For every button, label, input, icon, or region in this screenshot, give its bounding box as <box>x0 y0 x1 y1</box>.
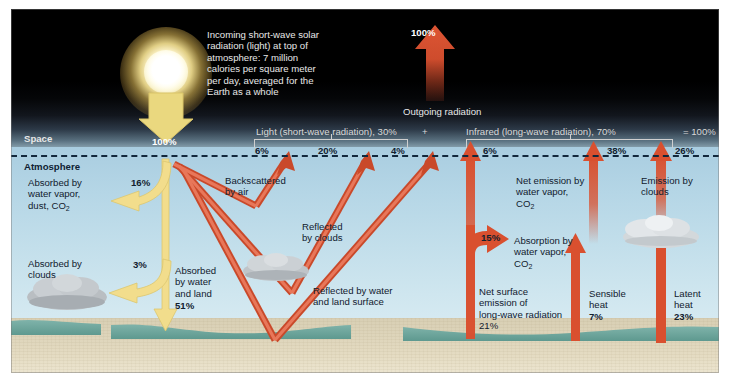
outgoing-total-pct: 100% <box>411 27 436 38</box>
absorbed-atmosphere-text: Absorbed by water vapor, dust, CO <box>28 177 82 211</box>
absorbed-clouds-label: Absorbed by clouds <box>28 258 82 281</box>
pct-absorbed-atmosphere: 16% <box>131 177 150 188</box>
pct-reflected-clouds: 20% <box>318 145 337 156</box>
pct-emission-clouds: 26% <box>675 145 694 156</box>
co2-subscript-3: 2 <box>528 263 532 270</box>
arrow-overlay <box>11 9 719 373</box>
absorbed-surface-label: Absorbed by water and land <box>175 265 216 299</box>
pct-net-emission-vapor: 38% <box>607 145 626 156</box>
net-emission-text: Net emission by water vapor, <box>516 175 584 197</box>
reflected-surface-label: Reflected by water and land surface <box>313 285 392 308</box>
absorbed-atmosphere-label: Absorbed by water vapor, dust, CO2 <box>28 177 82 214</box>
latent-heat-label: Latent heat <box>674 288 701 311</box>
emission-clouds-label: Emission by clouds <box>641 175 693 198</box>
shortwave-reflection-paths <box>173 151 439 340</box>
atmospheric-absorption-label: Absorption by water vapor, CO2 <box>514 235 573 272</box>
atmosphere-label: Atmosphere <box>24 161 80 172</box>
intro-text: Incoming short-wave solar radiation (lig… <box>207 29 319 97</box>
reflected-clouds-label: Reflected by clouds <box>302 221 343 244</box>
pct-reflected-surface: 4% <box>391 145 405 156</box>
incoming-total-pct: 100% <box>152 136 177 147</box>
water-bodies <box>11 318 719 341</box>
longwave-bracket <box>466 139 673 148</box>
shortwave-bracket-label: Light (short-wave radiation), 30% <box>256 126 397 137</box>
pct-latent-heat: 23% <box>674 311 693 322</box>
cloud-icon-right <box>623 215 699 248</box>
sensible-heat-label: Sensible heat <box>589 288 626 311</box>
net-surface-emission-label: Net surface emission of long-wave radiat… <box>479 286 562 332</box>
equals-total-label: = 100% <box>683 126 716 137</box>
net-emission-label: Net emission by water vapor, CO2 <box>516 175 584 212</box>
cloud-icon-middle <box>243 253 309 281</box>
pct-absorbed-surface: 51% <box>175 300 194 311</box>
pct-longwave-surface-window: 6% <box>483 145 497 156</box>
diagram-canvas: Incoming short-wave solar radiation (lig… <box>0 0 730 385</box>
backscattered-air-label: Backscattered by air <box>225 175 286 198</box>
pct-sensible-heat: 7% <box>589 311 603 322</box>
pct-absorbed-clouds: 3% <box>133 259 147 270</box>
energy-budget-figure: Incoming short-wave solar radiation (lig… <box>11 9 719 373</box>
co2-subscript-2: 2 <box>530 203 534 210</box>
pct-backscattered-air: 6% <box>255 145 269 156</box>
plus-sign: + <box>422 126 428 137</box>
space-label: Space <box>24 133 52 144</box>
outgoing-radiation-label: Outgoing radiation <box>403 106 481 117</box>
atmospheric-absorption-text: Absorption by water vapor, CO <box>514 235 573 269</box>
pct-atmospheric-absorption: 15% <box>481 232 500 243</box>
co2-subscript-1: 2 <box>66 205 70 212</box>
longwave-bracket-label: Infrared (long-wave radiation), 70% <box>466 126 616 137</box>
